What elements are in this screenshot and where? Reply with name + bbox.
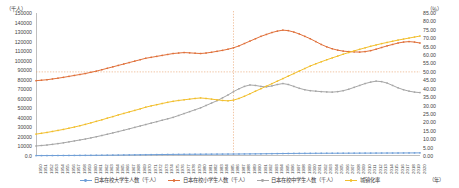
series-marker [249,84,251,86]
x-axis-tick: 1997 [296,164,301,174]
series-marker [238,98,240,100]
x-axis-tick: 1950 [38,164,43,174]
series-marker [364,83,366,85]
series-marker [161,103,163,105]
x-axis-tick: 1962 [104,164,109,174]
series-marker [134,127,136,128]
series-marker [271,85,273,87]
series-marker [112,154,114,156]
series-marker [414,41,416,43]
y-axis-right-tick: 75.00 [423,27,436,33]
series-line-1 [36,30,420,81]
series-marker [353,152,355,154]
series-marker [392,41,394,43]
series-marker [419,35,421,37]
series-marker [266,153,268,155]
y-axis-right-tick: 45.00 [423,77,436,83]
series-marker [52,144,54,146]
x-axis-tick: 1989 [252,164,257,174]
series-marker [205,105,207,107]
series-marker [96,70,98,72]
series-marker [260,88,262,90]
series-marker [282,78,284,80]
x-axis-unit-label: （年） [429,176,444,184]
series-marker [139,108,141,110]
series-marker [150,105,152,107]
series-marker [183,99,185,101]
x-axis-tick: 1983 [219,164,224,174]
series-marker [150,57,152,59]
legend-item-1[interactable]: 日本在校小学生人数（千人） [168,176,248,184]
series-marker [249,93,251,95]
series-marker [293,31,295,33]
series-marker [189,111,191,113]
x-axis-tick: 2017 [405,164,410,174]
x-axis-tick: 1952 [49,164,54,174]
series-marker [57,77,59,79]
series-marker [107,68,109,70]
series-marker [101,135,103,137]
series-marker [386,42,388,44]
series-marker [74,126,76,128]
series-marker [238,153,240,155]
series-marker [68,76,70,78]
series-marker [370,46,372,48]
x-axis-tick: 1956 [71,164,76,174]
series-marker [321,44,323,46]
series-marker [194,154,196,156]
series-marker [293,153,295,155]
series-marker [178,52,180,54]
series-marker [260,153,262,155]
series-marker [216,153,218,155]
series-marker [392,85,394,87]
series-marker [172,154,174,156]
legend-item-0[interactable]: 日本在校大学生人数（千人） [80,176,160,184]
series-marker [79,125,81,127]
series-marker [342,50,344,52]
series-marker [315,41,317,43]
series-marker [386,82,388,84]
series-marker [249,153,251,155]
series-marker [85,73,87,75]
series-marker [386,45,388,47]
series-marker [178,154,180,156]
x-axis-tick: 2007 [350,164,355,174]
series-marker [129,62,131,64]
series-marker [397,39,399,41]
legend-item-2[interactable]: 日本在校中学生人数（千人） [257,176,337,184]
series-marker [266,34,268,36]
x-axis-tick: 2020 [422,164,427,174]
series-marker [101,69,103,71]
x-axis-tick: 1972 [158,164,163,174]
series-marker [222,153,224,155]
series-marker [304,153,306,155]
series-marker [90,137,92,139]
x-axis-tick: 1982 [213,164,218,174]
series-marker [134,60,136,62]
series-marker [310,90,312,92]
series-marker [260,36,262,38]
y-axis-right-tick: 85.00 [423,10,436,16]
x-axis-tick: 1964 [115,164,120,174]
series-marker [375,48,377,50]
series-marker [255,85,257,87]
series-marker [134,154,136,156]
series-marker [85,124,87,126]
series-marker [35,80,37,82]
series-marker [337,152,339,154]
series-marker [167,118,169,120]
series-marker [112,116,114,118]
series-marker [299,153,301,155]
series-marker [74,75,76,77]
series-marker [35,133,37,135]
series-marker [375,80,377,82]
series-marker [112,132,114,134]
x-axis-tick: 1968 [136,164,141,174]
series-marker [129,154,131,156]
series-marker [331,57,333,59]
y-axis-right-tick: 30.00 [423,103,436,109]
chart-svg [36,13,420,156]
series-marker [277,30,279,32]
legend-item-3[interactable]: 城镇化率 [345,176,380,184]
series-marker [139,125,141,127]
